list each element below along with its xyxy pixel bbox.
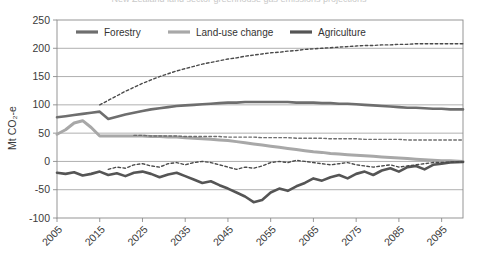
x-tick-label: 2085 (381, 223, 406, 248)
x-tick-label: 2005 (39, 223, 64, 248)
series-line-land-use-change (57, 121, 463, 162)
y-axis-tick-labels: 250200150100500-50-100 (29, 14, 50, 224)
y-tick-label: 250 (32, 14, 50, 26)
x-tick-label: 2055 (253, 223, 278, 248)
legend-label-forestry: Forestry (104, 27, 141, 38)
x-tick-label: 2095 (424, 223, 449, 248)
x-tickmarks (57, 218, 442, 222)
y-tick-label: 100 (32, 98, 50, 110)
chart-legend: ForestryLand-use changeAgriculture (76, 27, 366, 38)
chart-title-clipped: New Zealand land sector greenhouse gas e… (0, 0, 478, 6)
y-tick-label: 150 (32, 70, 50, 82)
x-tick-label: 2035 (168, 223, 193, 248)
emissions-line-chart: 250200150100500-50-100 20052015202520352… (0, 0, 478, 273)
plot-frame (57, 20, 463, 218)
x-tick-label: 2065 (296, 223, 321, 248)
legend-label-agriculture: Agriculture (318, 27, 366, 38)
series-layer (57, 44, 463, 202)
y-axis-title: Mt CO₂-e (6, 106, 18, 150)
x-tick-label: 2025 (125, 223, 150, 248)
series-line-total-projected (100, 44, 463, 105)
x-tick-label: 2075 (339, 223, 364, 248)
y-tickmarks (53, 20, 57, 218)
x-tick-label: 2045 (210, 223, 235, 248)
y-tick-label: 200 (32, 42, 50, 54)
y-tick-label: 0 (44, 155, 50, 167)
x-axis-tick-labels: 2005201520252035204520552065207520852095 (39, 223, 449, 248)
y-tick-label: 50 (38, 127, 50, 139)
legend-label-land-use-change: Land-use change (196, 27, 274, 38)
y-tick-label: -50 (35, 183, 50, 195)
y-tick-label: -100 (29, 212, 50, 224)
chart-container: New Zealand land sector greenhouse gas e… (0, 0, 478, 273)
x-tick-label: 2015 (82, 223, 107, 248)
series-line-agriculture (57, 162, 463, 202)
